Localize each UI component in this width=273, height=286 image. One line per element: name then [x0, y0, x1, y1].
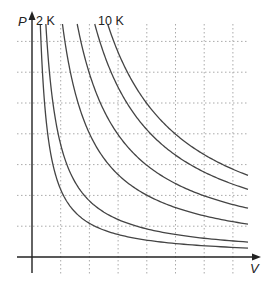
y-axis-arrow-icon: [29, 11, 36, 20]
pv-isotherm-diagram: P V 2 K 10 K: [0, 0, 273, 286]
axes: [17, 11, 261, 273]
isotherm-curve: [108, 24, 248, 175]
v-axis-label: V: [250, 261, 260, 276]
p-axis-label: P: [18, 14, 27, 29]
isotherm-curve: [62, 24, 248, 224]
isotherm-curve: [40, 24, 248, 248]
label-2k: 2 K: [36, 14, 55, 28]
label-10k: 10 K: [98, 14, 124, 28]
x-axis-arrow-icon: [252, 254, 261, 261]
isotherm-curves: [40, 24, 248, 248]
